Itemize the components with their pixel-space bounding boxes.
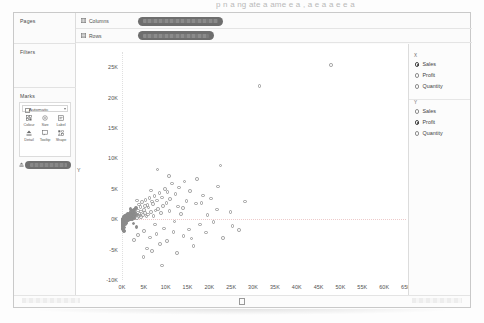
scatter-point[interactable] [142,229,146,233]
status-bar-left-ghost [22,298,80,303]
scatter-point[interactable] [195,177,199,181]
scatter-point[interactable] [159,211,163,215]
scatter-point[interactable] [198,223,202,227]
scatter-point[interactable] [165,201,169,205]
scatter-point[interactable] [329,63,333,67]
x-option-profit-radio[interactable] [415,73,419,77]
scatter-point[interactable] [158,242,162,246]
scatter-point[interactable] [170,182,174,186]
scatter-point[interactable] [221,236,225,240]
scatter-point[interactable] [132,238,136,242]
scatter-point[interactable] [192,244,196,248]
marks-button-tooltip[interactable]: Tooltip [37,129,53,144]
scatter-point[interactable] [258,84,262,88]
scatter-point[interactable] [212,220,216,224]
scatter-point[interactable] [215,208,219,212]
scatter-point[interactable] [145,247,149,251]
scatter-point[interactable] [149,189,153,193]
scatter-point[interactable] [194,202,198,206]
marks-detail-pill[interactable] [19,161,71,169]
y-parameter-header: Y [414,100,417,105]
scatter-point[interactable] [144,198,148,202]
x-option-profit-label: Profit [423,72,436,78]
y-option-sales-radio[interactable] [415,109,419,113]
scatter-point[interactable] [153,194,157,198]
scatter-point[interactable] [152,214,156,218]
scatter-point[interactable] [181,206,185,210]
marks-button-size[interactable]: Size [37,114,53,129]
scatter-point[interactable] [166,190,170,194]
scatter-point[interactable] [160,196,164,200]
mark-type-dropdown[interactable]: Automatic [22,105,68,112]
columns-shelf[interactable]: Columns [76,14,472,29]
scatter-point[interactable] [188,189,192,193]
scatter-point[interactable] [185,199,189,203]
scatter-point[interactable] [158,191,162,195]
scatter-point[interactable] [237,228,241,232]
filters-shelf[interactable]: Filters [14,44,76,88]
scatter-point[interactable] [135,199,139,203]
scatter-point[interactable] [167,174,171,178]
scatter-point[interactable] [173,220,177,224]
scatter-point[interactable] [179,212,183,216]
scatter-point[interactable] [145,215,149,219]
scatter-point[interactable] [153,223,157,227]
scatter-point[interactable] [155,199,159,203]
scatter-point[interactable] [136,233,140,237]
scatter-point[interactable] [168,197,172,201]
scatter-point[interactable] [204,231,208,235]
scatter-point[interactable] [175,251,179,255]
columns-shelf-pill[interactable] [138,17,223,26]
worksheet-status-bar [14,295,470,307]
filters-shelf-title: Filters [20,49,35,55]
scatter-point[interactable] [150,249,154,253]
scatter-point[interactable] [135,225,139,229]
scatter-point[interactable] [161,204,165,208]
y-option-quantity-radio[interactable] [415,131,419,135]
scatter-point[interactable] [138,214,142,218]
scatter-point[interactable] [200,201,204,205]
scatter-point[interactable] [142,255,146,259]
x-option-sales-radio[interactable] [415,62,419,66]
x-option-quantity-radio[interactable] [415,84,419,88]
scatter-point[interactable] [176,205,180,209]
rows-shelf[interactable]: Rows [76,29,472,44]
marks-button-detail[interactable]: Detail [21,129,37,144]
scatter-point[interactable] [231,224,235,228]
scatter-point[interactable] [229,210,233,214]
scatter-plot-area[interactable] [122,52,406,280]
scatter-point[interactable] [154,209,158,213]
scatter-point[interactable] [156,168,160,172]
scatter-point[interactable] [183,180,187,184]
scatter-point[interactable] [190,237,194,241]
marks-detail-pill-body[interactable] [25,161,71,169]
scatter-point[interactable] [209,197,213,201]
scatter-point[interactable] [155,232,159,236]
y-option-profit-radio[interactable] [415,120,419,124]
scatter-point[interactable] [187,228,191,232]
scatter-point[interactable] [182,234,186,238]
scatter-point[interactable] [168,209,172,213]
scatter-point[interactable] [243,200,247,204]
scatter-point[interactable] [165,239,169,243]
pages-shelf[interactable]: Pages [14,13,76,44]
scatter-point[interactable] [143,204,147,208]
scatter-point[interactable] [206,213,210,217]
scatter-point[interactable] [148,236,152,240]
scatter-point[interactable] [219,164,223,168]
scatter-point[interactable] [160,264,164,268]
rows-shelf-pill[interactable] [138,31,214,40]
scatter-point[interactable] [172,230,176,234]
marks-button-shape[interactable]: Shape [53,129,69,144]
scatter-point[interactable] [147,206,151,210]
marks-button-label[interactable]: Label [53,114,69,129]
scatter-point[interactable] [174,192,178,196]
scatter-point[interactable] [122,229,126,233]
marks-button-colour[interactable]: Colour [21,114,37,129]
scatter-point[interactable] [216,185,220,189]
scatter-point[interactable] [162,227,166,231]
scatter-point[interactable] [201,194,205,198]
scatter-point[interactable] [151,202,155,206]
rows-pill-redacted-label [143,34,209,38]
scatter-point[interactable] [177,186,181,190]
